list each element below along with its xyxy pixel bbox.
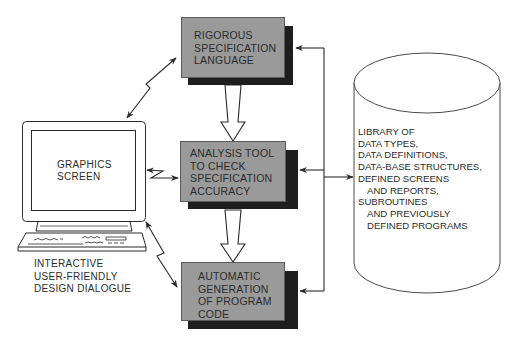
zigzag-link-spec-language [127,58,176,118]
process-box-code-generation: AUTOMATIC GENERATION OF PROGRAM CODE [181,262,285,321]
terminal-caption: INTERACTIVE USER-FRIENDLY DESIGN DIALOGU… [34,258,131,296]
diagram-canvas: GRAPHICS SCREEN INTERACTIVE USER-FRIENDL… [0,0,515,340]
process-box-analysis-tool: ANALYSIS TOOL TO CHECK SPECIFICATION ACC… [180,141,286,202]
library-bus-connector [296,48,353,291]
graphics-screen-label: GRAPHICS SCREEN [57,159,112,183]
library-description: LIBRARY OF DATA TYPES, DATA DEFINITIONS,… [358,126,482,231]
zigzag-link-analysis-tool [147,170,178,178]
hollow-arrow-spec-to-analysis [221,85,245,141]
process-box-spec-language: RIGOROUS SPECIFICATION LANGUAGE [181,17,285,78]
hollow-arrow-analysis-to-codegen [221,210,245,262]
computer-terminal-icon [18,122,146,252]
zigzag-link-code-generation [146,222,177,287]
